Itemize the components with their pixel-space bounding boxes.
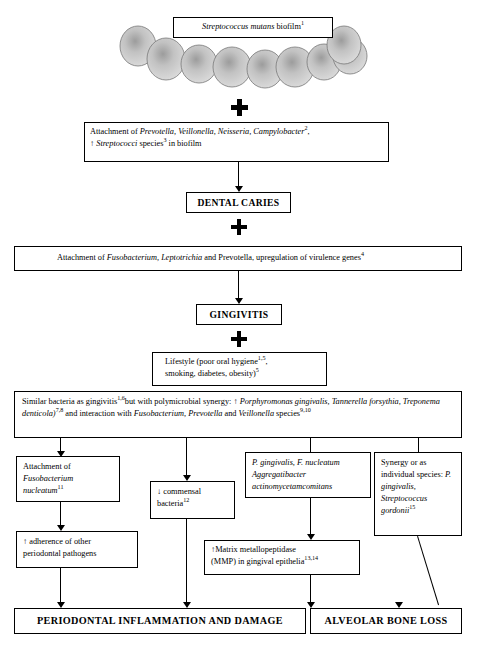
commensal-line-2: bacteria12 [157,498,228,510]
fuso-ref: 4 [361,252,364,258]
plus-connector-3 [231,331,247,347]
connector-similar-to-commensal [186,438,187,478]
veillonella-italic: Veillonella [239,409,274,418]
streptococci-italic: Streptococci [96,139,137,148]
biofilm-species-italic: Streptococcus mutans [202,22,274,31]
connector-fuso-to-gingivitis [238,271,239,301]
similar-bacteria-text: Similar bacteria as gingivitis1,6but wit… [22,397,440,418]
pgfn-line-3: actinomycetamcomitans [252,481,364,493]
attachment-fn-box: Attachment of Fusobacterium nucleatum11 [16,456,120,502]
early-colonizer-genera: Prevotella, Veillonella, Neisseria, Camp… [140,127,305,136]
gingivitis-label: GINGIVITIS [210,308,269,322]
adherence-line-1: ↑ adherence of other [23,536,131,548]
mmp-line-2: (MMP) in gingival epithelia13,14 [211,556,353,568]
attachment-fn-text: Attachment of Fusobacterium nucleatum11 [23,462,73,495]
alveolar-bone-loss-label: ALVEOLAR BONE LOSS [324,614,447,629]
synergy-ref: 15 [409,504,415,510]
dental-caries-box: DENTAL CARIES [186,192,291,213]
lifestyle-line-2: smoking, diabetes, obesity)5 [165,368,321,380]
similar-ref-1: 1,6 [117,395,125,401]
commensal-line-1: ↓ commensal [157,486,228,498]
pgfn-line-1: P. gingivalis, F. nucleatum [252,457,364,469]
fn-italic: Fusobacterium nucleatum [23,474,73,495]
attachment-early-colonizers-box: Attachment of Prevotella, Veillonella, N… [84,122,389,162]
periodontal-inflammation-label: PERIODONTAL INFLAMMATION AND DAMAGE [37,614,283,629]
mmp-line-1: ↑Matrix metallopeptidase [211,544,353,556]
attachment-early-line-2: ↑ Streptococci species3 in biofilm [90,138,383,150]
connector-adherence-to-inflammation [60,568,61,606]
synergy-box: Synergy or as individual species: P. gin… [374,452,462,536]
connector-similar-to-pgfn [310,438,311,452]
similar-ref-3: 9,10 [300,407,311,413]
lifestyle-box: Lifestyle (poor oral hygiene1,5, smoking… [152,352,327,386]
pgfn-line-2: Aggregatibacter [252,469,364,481]
streptococcus-mutans-biofilm-box: Streptococcus mutans biofilm1 [173,17,333,38]
pg-fn-aa-box: P. gingivalis, F. nucleatum Aggregatibac… [245,452,371,498]
mmp-ref: 13,14 [304,555,318,561]
plus-connector-2 [231,219,247,235]
alveolar-bone-loss-box: ALVEOLAR BONE LOSS [310,608,462,634]
fn-ref: 11 [58,484,64,490]
adherence-line-2: periodontal pathogens [23,548,131,560]
attachment-fusobacterium-box: Attachment of Fusobacterium, Leptotrichi… [14,246,462,271]
commensal-box: ↓ commensal bacteria12 [150,481,235,519]
mmp-box: ↑Matrix metallopeptidase (MMP) in gingiv… [204,540,360,575]
commensal-ref: 12 [183,497,189,503]
periodontal-inflammation-box: PERIODONTAL INFLAMMATION AND DAMAGE [14,608,306,634]
diagram-canvas: Streptococcus mutans biofilm1 Attachment… [0,0,477,650]
adherence-box: ↑ adherence of other periodontal pathoge… [16,531,138,568]
plus-connector-1 [231,99,248,116]
biofilm-ref: 1 [301,21,304,27]
attachment-fuso-text: Attachment of Fusobacterium, Leptotrichi… [20,252,364,264]
dental-caries-label: DENTAL CARIES [198,196,280,210]
connector-pgfn-to-mmp [310,498,311,537]
connector-synergy-to-bone-loss [417,536,439,605]
gingivitis-box: GINGIVITIS [196,304,282,325]
lifestyle-ref-2: 5 [256,367,259,373]
biofilm-label-text: Streptococcus mutans biofilm1 [202,21,304,33]
connector-similar-to-synergy [418,438,419,452]
attachment-early-line-1: Attachment of Prevotella, Veillonella, N… [90,126,383,138]
lifestyle-line-1: Lifestyle (poor oral hygiene1,5, [165,356,321,368]
connector-early-to-caries [238,162,239,189]
fuso-prevo-italic: Fusobacterium, Prevotella [134,409,223,418]
connector-commensal-to-inflammation [186,519,187,606]
similar-bacteria-box: Similar bacteria as gingivitis1,6but wit… [14,391,462,438]
synergy-text: Synergy or as individual species: P. gin… [381,458,451,515]
fuso-lepto-italic: Fusobacterium, Leptotrichia [107,253,202,262]
biofilm-label-plain: biofilm [274,22,301,31]
